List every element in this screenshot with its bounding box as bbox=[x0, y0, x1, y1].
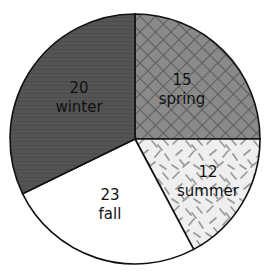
pie-label-winter-name: winter bbox=[55, 98, 103, 116]
pie-label-fall-value: 23 bbox=[100, 186, 119, 204]
pie-slice-spring[interactable] bbox=[135, 14, 260, 139]
pie-label-summer-value: 12 bbox=[198, 163, 217, 181]
pie-label-summer-name: summer bbox=[177, 182, 240, 200]
pie-chart-svg: 15 spring 12 summer 23 fall 20 winter bbox=[0, 0, 265, 280]
pie-label-fall-name: fall bbox=[99, 205, 122, 223]
pie-label-spring-value: 15 bbox=[172, 71, 191, 89]
pie-label-fall: 23 fall bbox=[99, 186, 122, 223]
pie-slices bbox=[10, 14, 260, 264]
pie-chart-figure: 15 spring 12 summer 23 fall 20 winter bbox=[0, 0, 265, 280]
pie-label-spring-name: spring bbox=[159, 90, 206, 108]
pie-label-winter-value: 20 bbox=[69, 79, 88, 97]
